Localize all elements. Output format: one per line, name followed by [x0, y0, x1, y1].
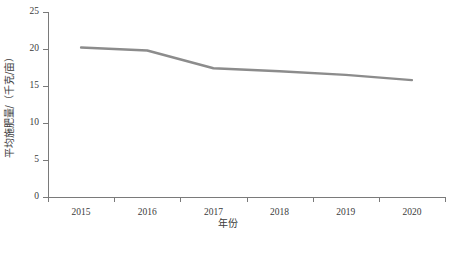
y-axis-title: 平均施肥量/（千克/亩） [3, 0, 17, 209]
series-line-average-fertilizer [81, 48, 412, 81]
x-axis-tick-label: 2015 [72, 208, 91, 218]
x-axis-title-label: 年份 [218, 218, 238, 229]
x-axis-tick-label: 2020 [402, 208, 421, 218]
x-axis-tick-label: 2018 [270, 208, 289, 218]
x-axis-tick-label: 2017 [204, 208, 223, 218]
plot-area: 0510152025 201520162017201820192020 [48, 12, 445, 197]
y-axis-tick-label: 0 [34, 192, 39, 202]
y-axis-tick-label: 15 [30, 81, 40, 91]
y-axis-tick-label: 25 [30, 7, 40, 17]
series-line-chart [48, 12, 445, 198]
y-axis-tick-label: 20 [30, 44, 40, 54]
x-axis-tick-label: 2016 [138, 208, 157, 218]
x-axis-tick [445, 197, 446, 202]
x-axis-title: 年份 [0, 219, 455, 229]
x-axis-tick-label: 2019 [336, 208, 355, 218]
chart-figure: 平均施肥量/（千克/亩） 0510152025 2015201620172018… [0, 0, 455, 256]
y-axis-title-label: 平均施肥量/（千克/亩） [5, 51, 15, 158]
y-axis-tick-label: 10 [30, 118, 40, 128]
y-axis-tick-label: 5 [34, 155, 39, 165]
